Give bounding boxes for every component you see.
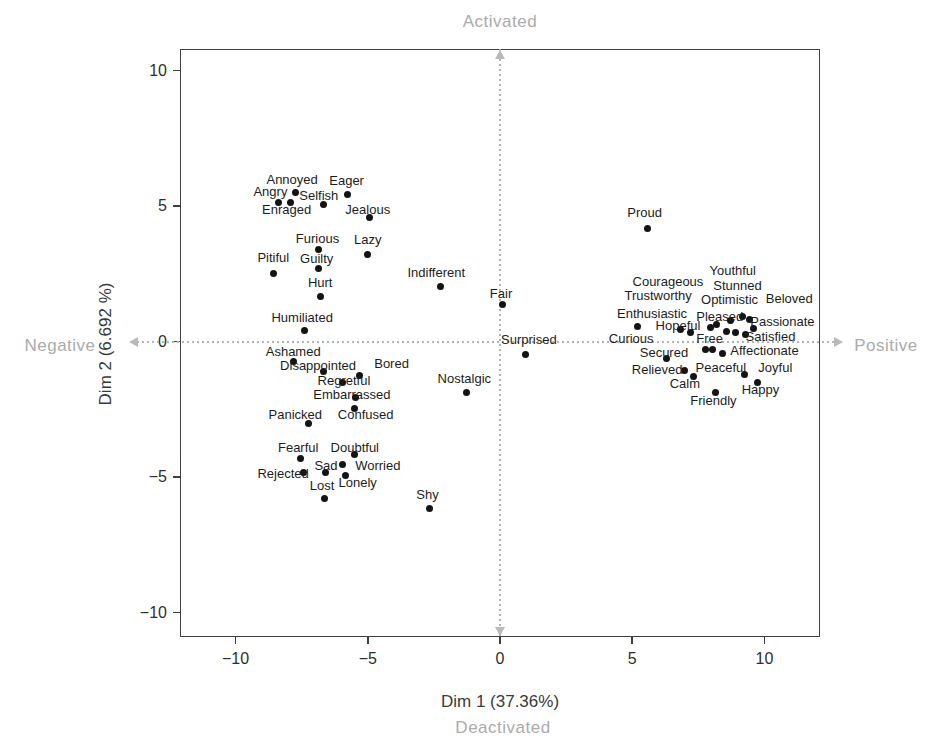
point-label: Humiliated <box>271 310 332 325</box>
point-label: Ashamed <box>266 344 321 359</box>
data-point <box>437 283 444 290</box>
positive-arrowhead-icon <box>834 337 843 347</box>
point-label: Shy <box>416 486 438 501</box>
point-label: Sad <box>314 458 337 473</box>
point-label: Enthusiastic <box>617 305 687 320</box>
data-point <box>463 389 470 396</box>
y-axis-tick <box>173 476 180 478</box>
x-axis-tick <box>764 637 766 644</box>
point-label: Optimistic <box>701 291 758 306</box>
point-label: Relieved <box>632 361 683 376</box>
data-point <box>270 270 277 277</box>
point-label: Calm <box>670 375 700 390</box>
x-axis-tick <box>499 637 501 644</box>
point-label: Enraged <box>262 202 311 217</box>
x-axis-tick-label: −5 <box>359 650 377 668</box>
point-label: Embarrassed <box>313 386 390 401</box>
point-label: Regretful <box>318 372 371 387</box>
point-label: Selfish <box>299 188 338 203</box>
x-axis-tick <box>631 637 633 644</box>
x-axis-tick-label: −10 <box>222 650 249 668</box>
point-label: Free <box>696 330 723 345</box>
point-label: Eager <box>329 173 364 188</box>
x-axis-tick <box>367 637 369 644</box>
data-point <box>301 327 308 334</box>
data-point <box>499 301 506 308</box>
point-label: Lost <box>310 478 335 493</box>
point-label: Trustworthy <box>624 288 691 303</box>
point-label: Doubtful <box>331 439 379 454</box>
point-label: Secured <box>640 345 688 360</box>
deactivated-quadrant-label: Deactivated <box>455 718 550 738</box>
point-label: Curious <box>609 330 654 345</box>
data-point <box>321 495 328 502</box>
y-axis-tick-label: −5 <box>149 468 167 486</box>
point-label: Surprised <box>501 331 557 346</box>
positive-quadrant-label: Positive <box>854 336 918 356</box>
y-axis-tick <box>173 205 180 207</box>
y-axis-tick <box>173 70 180 72</box>
point-label: Rejected <box>257 466 308 481</box>
point-label: Jealous <box>345 202 390 217</box>
point-label: Joyful <box>758 360 792 375</box>
point-label: Panicked <box>269 406 322 421</box>
point-label: Fearful <box>278 440 318 455</box>
point-label: Lazy <box>354 232 381 247</box>
x-axis-tick-label: 0 <box>496 650 505 668</box>
y-axis-tick-label: 5 <box>158 197 167 215</box>
x-axis-tick-label: 10 <box>756 650 774 668</box>
point-label: Confused <box>338 406 394 421</box>
point-label: Disappointed <box>280 358 356 373</box>
activated-quadrant-label: Activated <box>463 12 537 32</box>
point-label: Worried <box>355 458 400 473</box>
point-label: Angry <box>253 184 287 199</box>
negative-quadrant-label: Negative <box>24 336 95 356</box>
point-label: Beloved <box>766 291 813 306</box>
point-label: Youthful <box>709 263 756 278</box>
y-axis-title: Dim 2 (6.692 %) <box>96 283 116 406</box>
point-label: Hurt <box>308 275 333 290</box>
point-label: Courageous <box>633 274 704 289</box>
point-label: Bored <box>374 355 409 370</box>
x-axis-tick-label: 5 <box>628 650 637 668</box>
data-point <box>426 505 433 512</box>
point-label: Furious <box>296 231 339 246</box>
point-label: Passionate <box>750 313 814 328</box>
y-axis-tick <box>173 612 180 614</box>
y-axis-tick-label: −10 <box>140 604 167 622</box>
point-label: Proud <box>627 204 662 219</box>
point-label: Satisfied <box>746 328 796 343</box>
activated-arrowhead-icon <box>495 50 505 59</box>
point-label: Indifferent <box>407 265 465 280</box>
deactivated-arrowhead-icon <box>495 627 505 636</box>
point-label: Lonely <box>339 475 377 490</box>
y-axis-tick-label: 10 <box>149 62 167 80</box>
data-point <box>644 225 651 232</box>
point-label: Affectionate <box>730 342 798 357</box>
point-label: Guilty <box>300 251 333 266</box>
negative-arrowhead-icon <box>129 337 138 347</box>
emotion-dimensions-scatter-plot: Activated Deactivated Negative Positive … <box>0 0 939 754</box>
point-label: Pitiful <box>257 250 289 265</box>
data-point <box>315 265 322 272</box>
x-axis-title: Dim 1 (37.36%) <box>441 692 559 712</box>
point-label: Happy <box>742 381 780 396</box>
point-label: Nostalgic <box>438 370 491 385</box>
point-label: Stunned <box>713 277 761 292</box>
x-axis-tick <box>235 637 237 644</box>
point-label: Pleased <box>696 308 743 323</box>
point-label: Peaceful <box>696 360 747 375</box>
point-label: Fair <box>490 285 512 300</box>
point-label: Friendly <box>690 393 736 408</box>
